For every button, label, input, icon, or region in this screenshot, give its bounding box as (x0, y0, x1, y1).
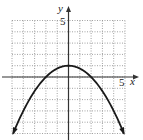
parabola-graph: y 5 5 x (0, 0, 143, 140)
x-axis-label: x (129, 75, 135, 87)
x-tick-5: 5 (119, 76, 125, 88)
y-axis-label: y (57, 2, 63, 14)
y-tick-5: 5 (60, 15, 66, 27)
